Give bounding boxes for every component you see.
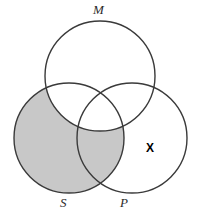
circle-label-p: P [120, 196, 128, 209]
venn-svg [0, 0, 203, 217]
circle-label-m: M [93, 3, 104, 16]
circle-label-s: S [60, 196, 67, 209]
x-marker: X [146, 142, 154, 154]
venn-diagram: M S P X [0, 0, 203, 217]
